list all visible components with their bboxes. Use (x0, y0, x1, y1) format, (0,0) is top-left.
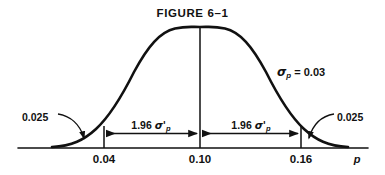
leader-line-left-tail (58, 114, 84, 138)
tail-probability-right: 0.025 (337, 112, 363, 123)
interval-multiplier-right: 1.96 (231, 119, 254, 131)
sigma-value: = 0.03 (294, 66, 325, 78)
interval-label-left: 1.96 σ'p (131, 120, 170, 133)
sigma-symbol: σ (277, 65, 286, 79)
interval-multiplier-left: 1.96 (131, 119, 154, 131)
tail-probability-left: 0.025 (22, 112, 48, 123)
x-axis-variable-label: p (354, 154, 361, 165)
interval-sigma-subscript-right: p (266, 124, 271, 133)
x-tick-label-lower: 0.04 (93, 154, 115, 166)
interval-sigma-subscript-left: p (166, 124, 171, 133)
sigma-subscript: p (286, 71, 291, 80)
interval-sigma-symbol-left: σ' (155, 119, 166, 131)
figure-container: FIGURE 6–1 (0, 0, 385, 175)
interval-sigma-symbol-right: σ' (255, 119, 266, 131)
normal-curve-plot (0, 0, 385, 175)
interval-label-right: 1.96 σ'p (231, 120, 270, 133)
x-tick-label-upper: 0.16 (290, 154, 312, 166)
sigma-annotation: σp = 0.03 (277, 66, 325, 80)
x-tick-label-mean: 0.10 (189, 154, 211, 166)
leader-line-right-tail (309, 114, 334, 138)
